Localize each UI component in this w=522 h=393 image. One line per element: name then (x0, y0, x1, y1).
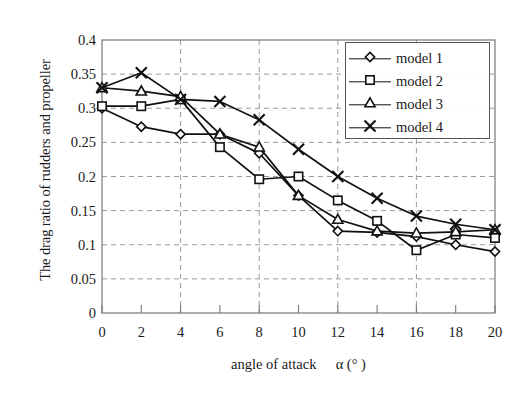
legend-swatch-cross-icon (346, 118, 394, 138)
marker-square (255, 175, 263, 183)
x-tick-label: 20 (475, 325, 515, 340)
marker-square (137, 102, 145, 110)
marker-cross (365, 120, 376, 131)
marker-square (491, 234, 499, 242)
chart-figure: The drag ratio of rudders and propeller … (0, 0, 522, 393)
x-tick-label: 0 (82, 325, 122, 340)
legend-label: model 2 (394, 73, 443, 90)
marker-diamond (176, 130, 185, 139)
legend-swatch-triangle-icon (346, 95, 394, 115)
x-tick-label: 18 (436, 325, 476, 340)
legend-row[interactable]: model 3 (346, 93, 489, 116)
x-axis-title-symbol: α (° ) (336, 356, 366, 372)
legend-label: model 3 (394, 96, 443, 113)
legend-marker-icon (362, 72, 378, 92)
x-tick-label: 12 (318, 325, 358, 340)
marker-square (334, 196, 342, 204)
marker-triangle (333, 214, 343, 223)
marker-square (366, 75, 374, 83)
marker-diamond (365, 52, 374, 61)
x-tick-label: 6 (200, 325, 240, 340)
legend-row[interactable]: model 2 (346, 70, 489, 93)
x-tick-label: 8 (239, 325, 279, 340)
marker-square (98, 102, 106, 110)
marker-cross (332, 171, 343, 182)
legend-row[interactable]: model 1 (346, 47, 489, 70)
x-axis-title-main: angle of attack (231, 356, 316, 372)
marker-square (412, 246, 420, 254)
marker-cross (372, 193, 383, 204)
legend-marker-icon (362, 118, 378, 138)
legend-swatch-diamond-icon (346, 49, 394, 69)
marker-cross (136, 67, 147, 78)
x-tick-label: 4 (161, 325, 201, 340)
marker-diamond (137, 122, 146, 131)
legend-marker-icon (362, 49, 378, 69)
legend-row[interactable]: model 4 (346, 116, 489, 139)
x-axis-tick-labels: 02468101214161820 (0, 325, 522, 349)
marker-square (216, 143, 224, 151)
marker-square (294, 172, 302, 180)
x-tick-label: 10 (279, 325, 319, 340)
x-axis-title: angle of attack α (° ) (102, 356, 495, 373)
legend-swatch-square-icon (346, 72, 394, 92)
marker-diamond (490, 247, 499, 256)
x-tick-label: 16 (396, 325, 436, 340)
legend-label: model 4 (394, 119, 443, 136)
x-tick-label: 14 (357, 325, 397, 340)
marker-square (373, 217, 381, 225)
chart-legend: model 1model 2model 3model 4 (345, 42, 490, 139)
legend-label: model 1 (394, 50, 443, 67)
legend-marker-icon (362, 95, 378, 115)
marker-triangle (365, 97, 375, 106)
marker-diamond (451, 240, 460, 249)
x-tick-label: 2 (121, 325, 161, 340)
marker-cross (293, 144, 304, 155)
x-axis-ticks (102, 305, 495, 313)
